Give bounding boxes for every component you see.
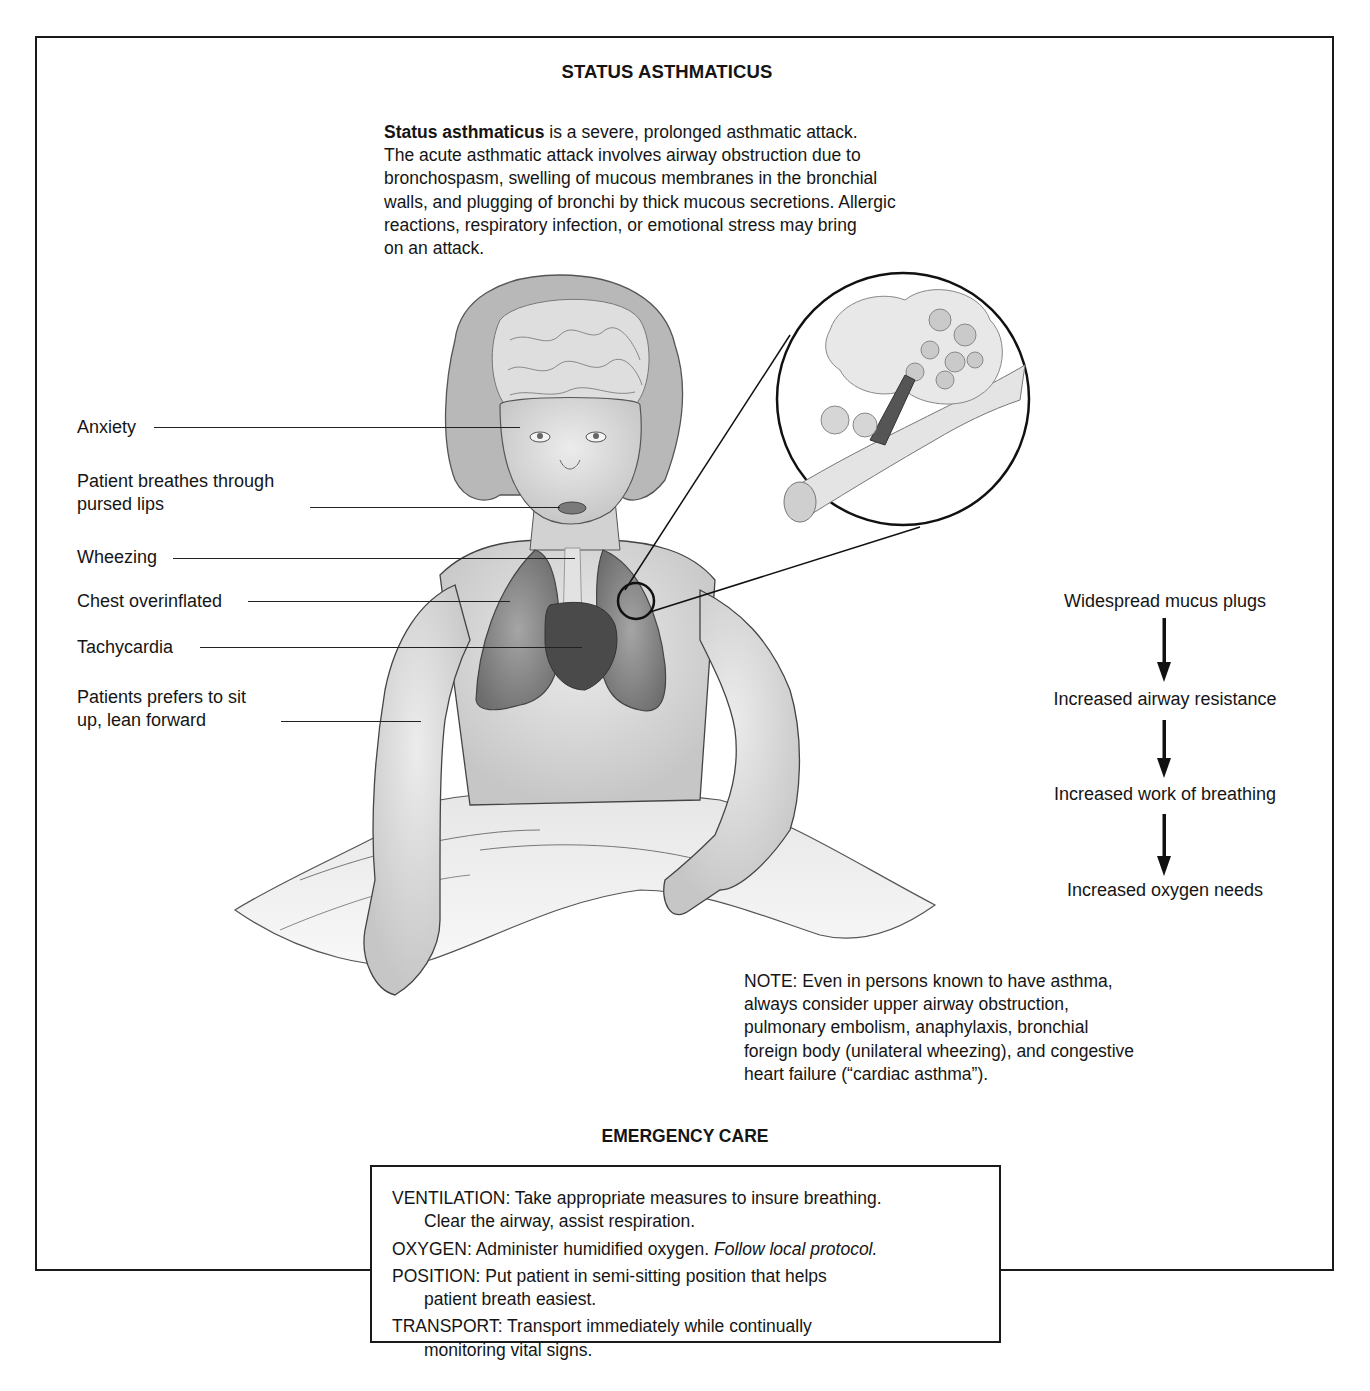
intro-paragraph: Status asthmaticus is a severe, prolonge…: [384, 121, 1024, 260]
note-line: always consider upper airway obstruction…: [744, 994, 1069, 1014]
note-line: foreign body (unilateral wheezing), and …: [744, 1041, 1134, 1061]
label-wheezing: Wheezing: [77, 546, 157, 569]
down-arrow-icon: [1154, 618, 1174, 684]
ec-cont: monitoring vital signs.: [392, 1340, 592, 1360]
ec-lead: OXYGEN: Administer humidified oxygen.: [392, 1239, 714, 1259]
label-sit-up-line1: Patients prefers to sit: [77, 687, 246, 707]
label-pursed-lips-line1: Patient breathes through: [77, 471, 274, 491]
ec-item-transport: TRANSPORT: Transport immediately while c…: [392, 1315, 999, 1362]
label-sit-up: Patients prefers to sit up, lean forward: [77, 686, 246, 732]
intro-line: bronchospasm, swelling of mucous membran…: [384, 168, 877, 188]
emergency-care-box: VENTILATION: Take appropriate measures t…: [370, 1165, 1001, 1343]
note-line: NOTE: Even in persons known to have asth…: [744, 971, 1113, 991]
ec-item-oxygen: OXYGEN: Administer humidified oxygen. Fo…: [392, 1238, 999, 1261]
flow-step: Increased airway resistance: [1010, 689, 1320, 710]
label-sit-up-line2: up, lean forward: [77, 710, 206, 730]
leader-line-anxiety: [154, 427, 520, 428]
emergency-care-title: EMERGENCY CARE: [370, 1126, 1000, 1147]
note-paragraph: NOTE: Even in persons known to have asth…: [744, 970, 1244, 1086]
ec-cont: Clear the airway, assist respiration.: [392, 1211, 695, 1231]
page-title: STATUS ASTHMATICUS: [0, 61, 1334, 83]
intro-line: on an attack.: [384, 238, 484, 258]
ec-lead: POSITION: Put patient in semi-sitting po…: [392, 1266, 827, 1286]
leader-line-pursed-lips: [310, 507, 560, 508]
intro-line: walls, and plugging of bronchi by thick …: [384, 192, 896, 212]
label-tachycardia: Tachycardia: [77, 636, 173, 659]
label-pursed-lips: Patient breathes through pursed lips: [77, 470, 274, 516]
label-pursed-lips-line2: pursed lips: [77, 494, 164, 514]
intro-term: Status asthmaticus: [384, 122, 544, 142]
leader-line-wheezing: [173, 558, 575, 559]
ec-cont: patient breath easiest.: [392, 1289, 596, 1309]
leader-line-chest: [248, 601, 510, 602]
flow-step: Widespread mucus plugs: [1010, 591, 1320, 612]
intro-line: is a severe, prolonged asthmatic attack.: [544, 122, 857, 142]
leader-line-sit-up: [281, 721, 421, 722]
down-arrow-icon: [1154, 720, 1174, 780]
leader-line-tachycardia: [200, 647, 582, 648]
ec-italic-note: Follow local protocol.: [714, 1239, 877, 1259]
flow-step: Increased work of breathing: [1010, 784, 1320, 805]
ec-lead: TRANSPORT: Transport immediately while c…: [392, 1316, 812, 1336]
intro-line: reactions, respiratory infection, or emo…: [384, 215, 857, 235]
flow-step: Increased oxygen needs: [1010, 880, 1320, 901]
ec-lead: VENTILATION: Take appropriate measures t…: [392, 1188, 882, 1208]
label-chest-overinflated: Chest overinflated: [77, 590, 222, 613]
note-line: heart failure (“cardiac asthma”).: [744, 1064, 988, 1084]
intro-line: The acute asthmatic attack involves airw…: [384, 145, 861, 165]
ec-item-ventilation: VENTILATION: Take appropriate measures t…: [392, 1187, 999, 1234]
down-arrow-icon: [1154, 814, 1174, 878]
label-anxiety: Anxiety: [77, 416, 136, 439]
ec-item-position: POSITION: Put patient in semi-sitting po…: [392, 1265, 999, 1312]
note-line: pulmonary embolism, anaphylaxis, bronchi…: [744, 1017, 1088, 1037]
